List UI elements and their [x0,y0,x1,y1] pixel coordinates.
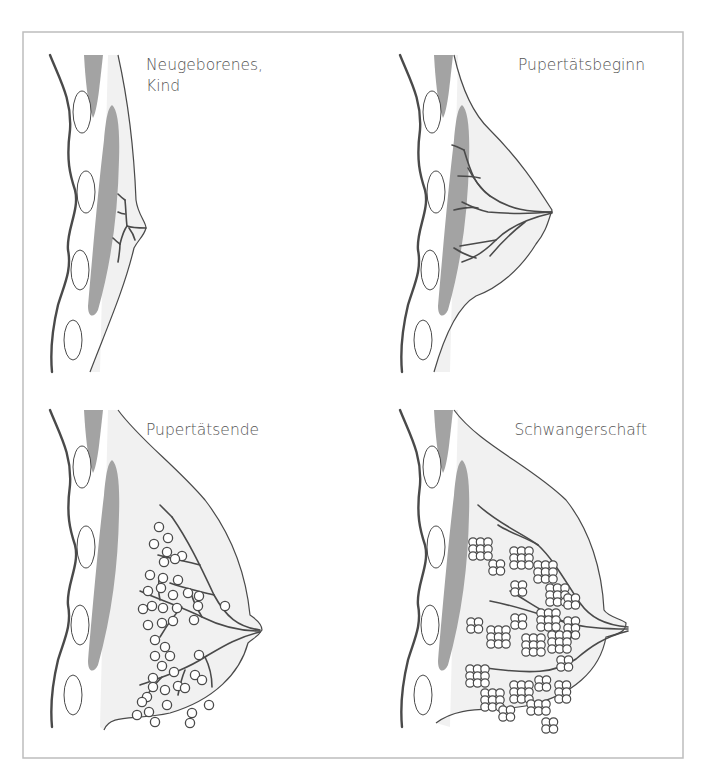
stage-label: Schwangerschaft [514,421,647,439]
lobule [158,603,167,612]
alveolus [496,567,504,575]
lobule [150,717,159,726]
lobule [143,620,152,629]
alveolus [542,683,550,691]
lobule [162,547,171,556]
lobule [197,675,206,684]
rib-cross-section [427,526,445,568]
lobule [168,616,177,625]
alveolus [481,679,489,687]
rib-cross-section [423,91,441,133]
lobule [144,707,153,716]
alveolus [562,695,570,703]
stage-label: Neugeborenes,Kind [146,56,263,95]
lobule [194,591,203,600]
alveolus [571,601,579,609]
rib-cross-section [421,250,439,290]
alveolus [474,625,482,633]
alveolus [552,623,560,631]
alveolus [518,588,526,596]
panels: Neugeborenes,KindPupertätsbeginnPupertät… [50,55,647,733]
alveolus [502,640,510,648]
rib-cross-section [414,320,432,360]
lobule [150,635,159,644]
lobule [220,601,229,610]
panel-puberty-end: Pupertätsende [50,410,262,730]
rib-cross-section [64,675,82,715]
rib-cross-section [71,250,89,290]
lobule [172,603,181,612]
lobule [160,642,169,651]
lobule [157,618,166,627]
alveolus [564,663,572,671]
lobule [138,604,147,613]
lobule [160,685,169,694]
lobule [165,651,174,660]
lobule [194,650,203,659]
alveolus [542,707,550,715]
lobule [163,533,172,542]
lobule [189,615,198,624]
lobule [180,683,189,692]
lobule [149,539,158,548]
lobule [132,710,141,719]
rib-cross-section [64,320,82,360]
lobule [150,651,159,660]
lobule [148,673,157,682]
mammary-development-diagram: Neugeborenes,KindPupertätsbeginnPupertät… [0,0,701,772]
panel-newborn: Neugeborenes,Kind [50,55,263,372]
lobule [185,718,194,727]
stage-label-line: Pupertätsende [146,421,259,439]
lobule [157,661,166,670]
lobule [148,682,157,691]
lobule [173,575,182,584]
lobule [162,700,171,709]
alveolus [571,631,579,639]
stage-label-line: Kind [146,77,180,95]
rib-cross-section [414,675,432,715]
alveolus [484,552,492,560]
lobule [145,570,154,579]
rib-cross-section [77,171,95,213]
rib-cross-section [77,526,95,568]
stage-label-line: Schwangerschaft [514,421,647,439]
alveolus [563,645,571,653]
alveolus [506,713,514,721]
rib-cross-section [73,91,91,133]
lobule [137,697,146,706]
panel-pregnancy: Schwangerschaft [400,410,647,733]
lobule [169,667,178,676]
lobule [154,522,163,531]
lobule [170,554,179,563]
stage-label-line: Pupertätsbeginn [518,56,645,74]
lobule [147,601,156,610]
lobule [187,708,196,717]
alveolus [549,575,557,583]
alveolus [518,621,526,629]
lobule [159,557,168,566]
stage-label-line: Neugeborenes, [146,56,263,74]
lobule [156,583,165,592]
rib-cross-section [73,446,91,488]
rib-cross-section [423,446,441,488]
stage-label: Pupertätsende [146,421,259,439]
lobule [143,586,152,595]
lobule [168,590,177,599]
rib-cross-section [421,605,439,645]
rib-cross-section [427,171,445,213]
alveolus [537,648,545,656]
lobule [158,573,167,582]
alveolus [549,725,557,733]
alveolus [525,561,533,569]
stage-label: Pupertätsbeginn [518,56,645,74]
panel-puberty-start: Pupertätsbeginn [400,55,645,372]
rib-cross-section [71,605,89,645]
lobule [193,601,202,610]
lobule [183,588,192,597]
lobule [204,700,213,709]
